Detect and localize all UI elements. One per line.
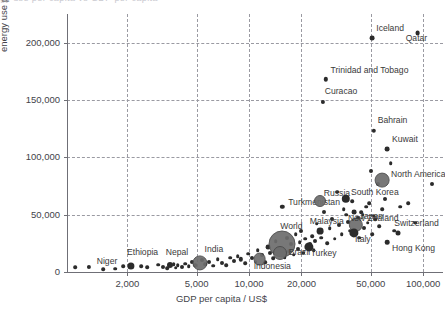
data-point-iceland: [370, 36, 375, 41]
data-point: [406, 201, 410, 205]
point-label-nepal: Nepal: [166, 248, 188, 257]
x-tick-mark: [197, 272, 198, 276]
point-label-niger: Niger: [97, 257, 118, 266]
data-point-trinidad-and-tobago: [323, 77, 327, 81]
y-tick-label: 0: [55, 266, 60, 277]
data-point: [325, 242, 329, 246]
data-point: [328, 227, 332, 231]
gridline-x-100000: [423, 14, 424, 272]
data-point: [322, 210, 326, 214]
point-label-hong-kong: Hong Kong: [392, 244, 435, 253]
data-point: [73, 265, 77, 269]
y-tick-label: 50,000: [31, 209, 60, 220]
gridline-x-2000: [127, 14, 128, 272]
x-tick-mark: [301, 272, 302, 276]
data-point: [369, 169, 373, 173]
point-label-kuwait: Kuwait: [392, 135, 418, 144]
y-tick-label: 150,000: [26, 94, 60, 105]
point-label-curacao: Curacao: [325, 87, 357, 96]
data-point: [350, 199, 354, 203]
data-point: [216, 258, 220, 262]
point-label-trinidad-and-tobago: Trinidad and Tobago: [331, 66, 409, 75]
data-point: [342, 207, 346, 211]
gridline-y-100000: [67, 157, 443, 158]
data-point: [180, 265, 184, 269]
x-tick-label: 50,000: [356, 278, 385, 289]
data-point: [333, 237, 337, 241]
y-tick-mark: [64, 43, 68, 44]
y-tick-mark: [64, 215, 68, 216]
data-point: [139, 264, 143, 268]
data-point: [243, 261, 247, 265]
data-point: [313, 239, 317, 243]
data-point: [232, 259, 236, 263]
data-point: [303, 237, 307, 241]
y-tick-mark: [64, 157, 68, 158]
data-point-india: [192, 255, 207, 270]
data-point: [320, 236, 324, 240]
x-tick-mark: [371, 272, 372, 276]
plot-area: NigerEthiopiaNepalIndiaIndonesiaWorldBra…: [67, 14, 443, 272]
point-label-indonesia: Indonesia: [254, 262, 291, 271]
data-point: [430, 182, 434, 186]
point-label-india: India: [205, 245, 224, 254]
data-point: [220, 261, 224, 265]
data-point: [145, 266, 149, 270]
data-point-hong-kong: [385, 240, 390, 245]
point-label-qatar: Qatar: [406, 34, 428, 43]
x-tick-mark: [249, 272, 250, 276]
data-point-curacao: [321, 100, 325, 104]
data-point: [362, 226, 366, 230]
data-point: [101, 267, 105, 271]
data-point-kuwait: [385, 147, 390, 152]
data-point-nepal: [167, 262, 173, 268]
y-tick-mark: [64, 100, 68, 101]
data-point: [211, 264, 215, 268]
data-point-switzerland: [396, 231, 401, 236]
data-point: [239, 257, 243, 261]
data-point: [161, 265, 165, 269]
data-point: [310, 235, 314, 239]
point-label-turkey: Turkey: [311, 249, 337, 258]
point-label-ethiopia: Ethiopia: [127, 248, 158, 257]
y-tick-label: 100,000: [26, 151, 60, 162]
data-point: [156, 263, 160, 267]
y-axis-label: energy use per capita / kWh: [0, 0, 9, 52]
data-point-ethiopia: [127, 262, 134, 269]
point-label-new-zealand: New Zealand: [348, 214, 399, 223]
y-tick-label: 200,000: [26, 37, 60, 48]
data-point: [247, 252, 251, 256]
x-tick-mark: [127, 272, 128, 276]
data-point-malaysia: [316, 227, 323, 234]
point-label-bahrain: Bahrain: [378, 116, 408, 125]
gridline-y-150000: [67, 100, 443, 101]
data-point: [187, 264, 191, 268]
data-point-north-america: [375, 173, 390, 188]
point-label-switzerland: Switzerland: [394, 219, 438, 228]
point-label-south-korea: South Korea: [351, 188, 399, 197]
data-point: [378, 224, 382, 228]
x-tick-label: 20,000: [287, 278, 316, 289]
point-label-north-america: North America: [391, 170, 445, 179]
data-point-bahrain: [372, 129, 376, 133]
data-point: [383, 197, 387, 201]
data-point: [113, 267, 117, 271]
data-point: [294, 232, 298, 236]
x-tick-label: 5,000: [185, 278, 209, 289]
point-label-malaysia: Malaysia: [310, 217, 344, 226]
x-axis-line: [67, 272, 443, 273]
gridline-x-10000: [249, 14, 250, 272]
point-label-world: World: [280, 222, 302, 231]
cropped-title-remnant: gy use per capita vs GDP per capita: [0, 0, 443, 7]
x-axis-label: GDP per capita / US$: [0, 293, 443, 304]
gridline-x-20000: [301, 14, 302, 272]
data-point: [207, 260, 211, 264]
x-tick-label: 10,000: [235, 278, 264, 289]
data-point: [364, 205, 368, 209]
point-label-iceland: Iceland: [376, 24, 404, 33]
x-tick-label: 100,000: [406, 278, 440, 289]
data-point: [389, 161, 393, 165]
x-tick-label: 2,000: [115, 278, 139, 289]
data-point: [399, 205, 403, 209]
